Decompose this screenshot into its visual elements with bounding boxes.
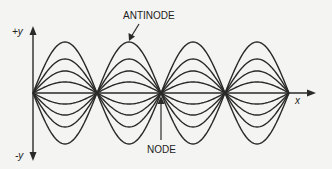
wave-envelope-curve (33, 59, 289, 93)
wave-envelope-curve (33, 42, 289, 93)
node-label: NODE (147, 144, 176, 155)
y-axis-up-arrow-icon (30, 26, 37, 35)
y-positive-label: +y (12, 26, 23, 37)
y-axis-down-arrow-icon (30, 152, 37, 161)
x-axis-arrow-icon (307, 90, 316, 97)
antinode-label: ANTINODE (123, 10, 175, 21)
x-axis-label: x (295, 95, 300, 106)
y-negative-label: -y (15, 150, 23, 161)
antinode-arrow-icon (129, 33, 136, 41)
